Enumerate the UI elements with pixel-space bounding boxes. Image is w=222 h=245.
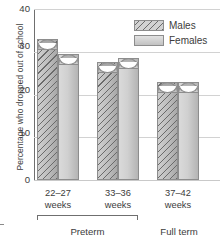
legend-swatch-males-icon (134, 20, 164, 31)
bar-cap (157, 82, 178, 93)
bar-cap (37, 39, 58, 50)
bar-cap (118, 58, 139, 69)
preterm-bracket (37, 215, 138, 220)
group-label-fullterm: Full term (148, 226, 210, 237)
x-label-line2: weeks (28, 200, 88, 212)
x-label-line1: 37–42 (148, 188, 208, 200)
gridline-30 (34, 52, 220, 53)
x-axis-label-33-36: 33–36 weeks (88, 188, 148, 211)
bar-cap (97, 62, 118, 73)
x-axis-label-22-27: 22–27 weeks (28, 188, 88, 211)
legend-swatch-females-icon (134, 35, 164, 46)
y-tick-label-40: 40 (4, 4, 30, 14)
legend-label-females: Females (169, 35, 207, 46)
legend-item-males: Males (134, 20, 207, 31)
bar-males-33-36 (97, 62, 118, 180)
bar-males-22-27 (37, 39, 58, 180)
group-label-preterm: Preterm (37, 226, 138, 237)
x-label-line1: 22–27 (28, 188, 88, 200)
legend-item-females: Females (134, 35, 207, 46)
bar-chart: Percentage who dropped out of school 40 … (0, 0, 222, 245)
bar-males-37-42 (157, 82, 178, 180)
y-tick-label-10: 10 (4, 128, 30, 138)
gridline-40 (34, 9, 220, 10)
page-edge-mark (0, 224, 4, 225)
bar-females-37-42 (178, 82, 199, 180)
legend: Males Females (134, 20, 207, 50)
y-tick-label-30: 30 (4, 41, 30, 51)
x-label-line2: weeks (88, 200, 148, 212)
x-axis-label-37-42: 37–42 weeks (148, 188, 208, 211)
bar-cap (58, 54, 79, 65)
x-label-line1: 33–36 (88, 188, 148, 200)
bar-females-33-36 (118, 58, 139, 180)
y-axis-title: Percentage who dropped out of school (15, 7, 25, 187)
y-tick-label-20: 20 (4, 85, 30, 95)
legend-label-males: Males (169, 20, 196, 31)
bar-females-22-27 (58, 54, 79, 180)
y-tick-label-0: 0 (4, 175, 30, 185)
bar-cap (178, 82, 199, 93)
gridline-0 (34, 180, 220, 181)
x-label-line2: weeks (148, 200, 208, 212)
